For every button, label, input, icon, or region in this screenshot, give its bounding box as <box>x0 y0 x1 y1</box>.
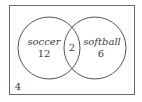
soccer-label: soccer <box>27 36 61 47</box>
intersection-count: 2 <box>69 42 75 53</box>
outside-count: 4 <box>15 81 21 92</box>
venn-diagram: soccer 12 softball 6 2 4 <box>0 0 142 102</box>
softball-label: softball <box>83 36 121 47</box>
softball-only-count: 6 <box>98 48 104 59</box>
soccer-only-count: 12 <box>38 48 51 59</box>
